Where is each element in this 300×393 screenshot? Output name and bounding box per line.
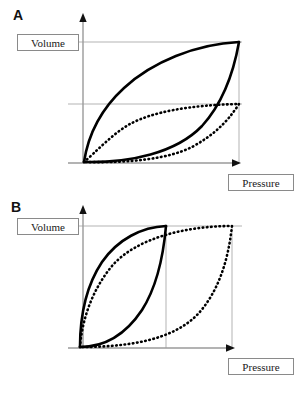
panel-a: A Volume Pressure	[0, 0, 300, 197]
x-axis-label-b: Pressure	[228, 358, 294, 375]
panel-label-a: A	[13, 8, 23, 22]
x-axis-label-a: Pressure	[228, 174, 294, 191]
dotted-inflation-limb	[84, 104, 239, 162]
solid-inflation-limb	[84, 42, 239, 162]
panel-b: B Volume Pressure	[0, 196, 300, 393]
y-axis-arrow-icon	[79, 13, 86, 22]
y-axis-label-a: Volume	[17, 34, 79, 51]
y-axis-label-b: Volume	[17, 218, 79, 235]
x-axis-arrow-icon	[232, 159, 241, 166]
solid-deflation-limb	[84, 42, 239, 162]
y-axis-arrow-icon	[79, 205, 86, 214]
dotted-inflation-limb	[80, 226, 232, 347]
pressure-volume-figure: A Volume Pressure B Volume Pressure	[0, 0, 300, 393]
x-axis-arrow-icon	[226, 344, 235, 351]
solid-deflation-limb	[80, 226, 166, 347]
panel-label-b: B	[11, 200, 21, 214]
panel-a-plot	[0, 0, 300, 197]
dotted-deflation-limb	[80, 226, 232, 347]
